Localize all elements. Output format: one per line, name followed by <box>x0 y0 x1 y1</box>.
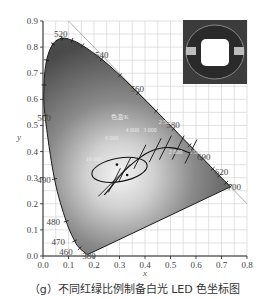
cct-label: 10 000 <box>86 156 103 162</box>
y-tick-label: 0.0 <box>27 251 39 261</box>
x-tick-label: 0.6 <box>190 260 202 270</box>
led-photo-inset <box>183 20 247 84</box>
y-tick-label: 0.1 <box>27 225 38 235</box>
figure-caption: （g）不同红绿比例制备白光 LED 色坐标图 <box>0 280 269 296</box>
x-tick-label: 0.2 <box>88 260 99 270</box>
x-axis-title: x <box>142 268 147 278</box>
cct-label: 4 000 <box>126 127 140 133</box>
wavelength-label-460: 460 <box>59 247 73 257</box>
y-tick-label: 0.4 <box>27 147 39 157</box>
wavelength-label-470: 470 <box>52 237 66 247</box>
wavelength-label-560: 560 <box>131 84 145 94</box>
data-point <box>126 174 129 177</box>
y-tick-label: 0.9 <box>27 16 39 26</box>
x-tick-label: 0.3 <box>114 260 126 270</box>
wavelength-label-700: 700 <box>228 182 242 192</box>
x-tick-label: 0.8 <box>241 260 253 270</box>
x-tick-label: 0.0 <box>37 260 49 270</box>
wavelength-label-620: 620 <box>215 167 229 177</box>
cct-label: 1 500 <box>189 149 203 155</box>
y-tick-label: 0.6 <box>27 94 39 104</box>
wavelength-label-500: 500 <box>37 113 51 123</box>
x-tick-label: 0.1 <box>63 260 74 270</box>
data-point <box>116 163 119 166</box>
cie-chromaticity-chart: 0.00.10.20.30.40.50.60.70.8 0.00.10.20.3… <box>0 0 269 280</box>
cct-label: 色温/K <box>111 113 130 121</box>
wavelength-label-380: 380 <box>82 251 96 261</box>
x-tick-label: 0.7 <box>216 260 228 270</box>
wavelength-label-480: 480 <box>46 217 60 227</box>
y-tick-label: 0.2 <box>27 199 38 209</box>
y-tick-label: 0.7 <box>27 68 39 78</box>
cct-label: 2 500 <box>159 119 173 125</box>
y-tick-labels: 0.00.10.20.30.40.50.60.70.80.9 <box>27 16 39 261</box>
wavelength-label-520: 520 <box>54 29 68 39</box>
cct-label: 3 000 <box>143 127 157 133</box>
wavelength-label-540: 540 <box>95 50 109 60</box>
y-axis-title: y <box>16 132 21 142</box>
x-tick-label: 0.5 <box>165 260 177 270</box>
cct-label: 2 000 <box>169 149 183 155</box>
wavelength-label-490: 490 <box>37 175 51 185</box>
y-tick-label: 0.8 <box>27 42 39 52</box>
cct-label: 6 000 <box>105 135 119 141</box>
